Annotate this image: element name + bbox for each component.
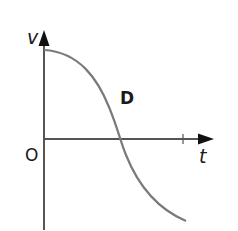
curve-label: D: [120, 88, 134, 108]
x-axis-label: t: [199, 145, 206, 167]
y-axis-label: v: [27, 26, 38, 48]
x-axis-arrow-icon: [198, 134, 214, 145]
y-axis-arrow-icon: [39, 30, 50, 46]
velocity-curve: [44, 50, 186, 221]
origin-label: O: [25, 145, 38, 165]
